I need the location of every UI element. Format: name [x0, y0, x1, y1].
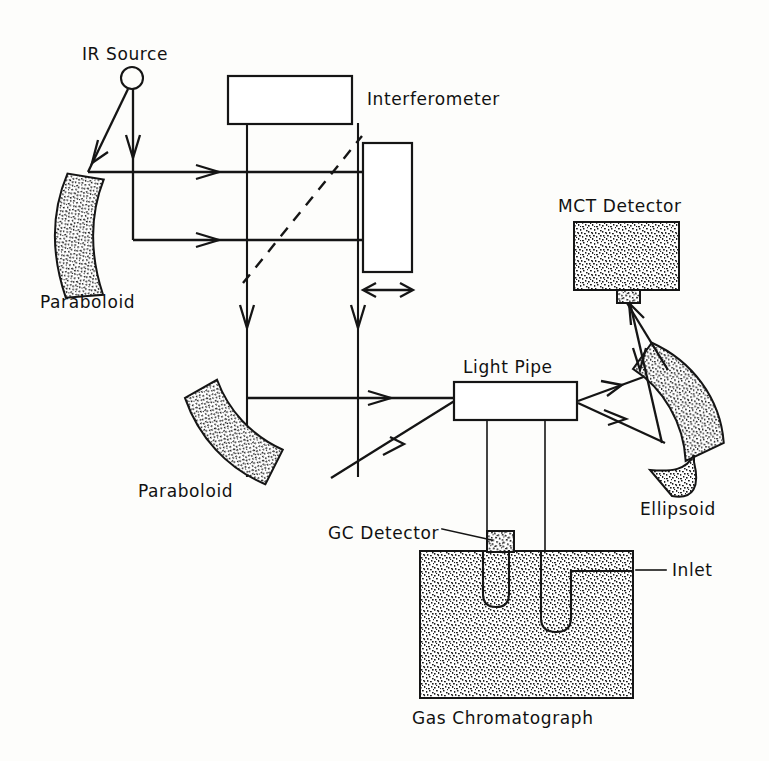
label-ellipsoid: Ellipsoid — [640, 499, 716, 519]
mct-detector-window — [617, 290, 640, 303]
optical-schematic: IR Source Paraboloid Interferometer MCT … — [0, 0, 769, 761]
gas-chromatograph-group[interactable] — [420, 531, 633, 698]
label-gc-detector: GC Detector — [328, 523, 439, 543]
mct-detector-group[interactable] — [574, 222, 679, 303]
light-pipe-body[interactable] — [454, 382, 577, 420]
diagram-canvas: IR Source Paraboloid Interferometer MCT … — [0, 0, 769, 761]
label-paraboloid-bottom: Paraboloid — [138, 481, 233, 501]
label-light-pipe: Light Pipe — [463, 357, 553, 377]
interferometer-body[interactable] — [228, 76, 352, 124]
label-ir-source: IR Source — [82, 44, 168, 64]
gas-chromatograph-body[interactable] — [420, 551, 633, 698]
label-inlet: Inlet — [672, 560, 713, 580]
label-paraboloid-top: Paraboloid — [40, 292, 135, 312]
gc-detector-block[interactable] — [487, 531, 514, 552]
label-gas-chromatograph: Gas Chromatograph — [412, 708, 594, 728]
label-mct-detector: MCT Detector — [558, 196, 682, 216]
moving-mirror-body[interactable] — [363, 143, 412, 272]
label-interferometer: Interferometer — [367, 89, 500, 109]
mct-detector-body[interactable] — [574, 222, 679, 290]
